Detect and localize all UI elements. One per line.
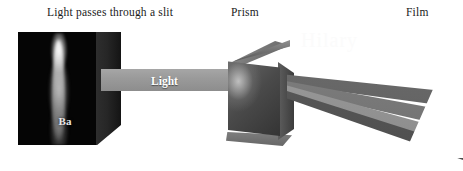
- prism-shape: [222, 40, 294, 140]
- film-screen: [408, 58, 463, 158]
- label-prism: Prism: [231, 6, 259, 18]
- diagram-canvas: Hilary Light passes through a slit Prism…: [0, 0, 463, 171]
- label-film: Film: [406, 6, 429, 18]
- watermark-text: Hilary: [301, 29, 358, 52]
- flame-element-label: Ba: [51, 115, 79, 127]
- prism-top-face: [222, 40, 290, 64]
- label-light-passes-through-a-slit: Light passes through a slit: [47, 6, 173, 18]
- prism-front-face: [228, 60, 280, 136]
- incident-light-beam-label: Light: [101, 70, 228, 92]
